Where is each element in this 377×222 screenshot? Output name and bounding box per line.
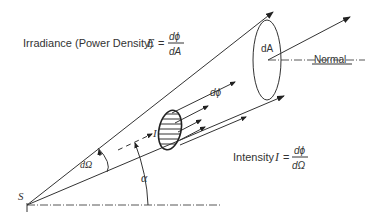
flux-ray <box>180 117 246 145</box>
intensity-denominator: dΩ <box>292 160 306 171</box>
intensity-symbol: I <box>274 150 280 164</box>
area-label: dA <box>261 43 274 54</box>
irradiance-numerator: dϕ <box>169 31 181 42</box>
irradiance-symbol: E <box>146 36 155 50</box>
intensity-label: Intensity <box>233 151 274 163</box>
radiometry-diagram: Irradiance (Power Density) E = dϕ dA dA … <box>0 0 377 222</box>
solid-angle-arrow <box>99 150 100 156</box>
irradiance-equals: = <box>158 37 164 49</box>
irradiance-denominator: dA <box>169 46 182 57</box>
area-ellipse <box>253 20 281 100</box>
intensity-axis <box>118 134 152 150</box>
intensity-arrow-label: I <box>152 127 158 139</box>
flux-label: dϕ <box>210 87 222 98</box>
angle-label: α <box>141 171 148 185</box>
intensity-equals: = <box>283 151 289 163</box>
normal-label: Normal <box>314 54 346 65</box>
irradiance-label: Irradiance (Power Density) <box>23 37 153 49</box>
intensity-numerator: dϕ <box>294 145 306 156</box>
source-label: S <box>18 190 24 202</box>
solid-angle-label: dΩ <box>80 159 92 170</box>
